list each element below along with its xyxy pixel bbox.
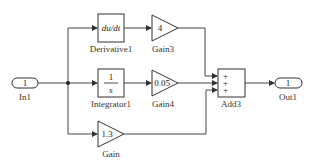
in1-label: In1 [19,92,31,102]
add3-label: Add3 [221,99,241,109]
integrator-numerator: 1 [109,72,114,82]
gain3-label: Gain3 [152,44,174,54]
out1-label: Out1 [279,92,297,102]
wire-gain3-add3 [178,28,217,76]
derivative-content: du/dt [102,23,121,33]
outport-out1[interactable]: 1 Out1 [275,78,302,102]
gain4-value: 0.05 [154,78,170,88]
gain3-block[interactable]: 4 Gain3 [152,15,178,54]
gain-value: 1.3 [101,129,113,139]
integrator-denominator: s [109,85,113,95]
add3-block[interactable]: + + + Add3 [218,69,245,109]
gain4-block[interactable]: 0.05 Gain4 [152,70,178,109]
integrator-block[interactable]: 1 s Integrator1 [91,69,131,109]
in1-port-number: 1 [23,78,28,88]
gain4-label: Gain4 [152,99,174,109]
integrator-label: Integrator1 [91,99,131,109]
derivative-block[interactable]: du/dt Derivative1 [90,14,132,54]
gain-block[interactable]: 1.3 Gain [98,121,124,159]
inport-in1[interactable]: 1 In1 [12,78,38,102]
derivative-label: Derivative1 [90,44,132,54]
gain-label: Gain [102,149,120,159]
wire-gain-add3 [124,90,217,134]
add3-sign-3: + [223,85,228,95]
branch-junction [66,81,70,85]
simulink-diagram: 1 In1 du/dt Derivative1 4 Gain3 1 s Inte… [0,0,314,168]
gain3-value: 4 [158,23,163,33]
out1-port-number: 1 [286,78,291,88]
